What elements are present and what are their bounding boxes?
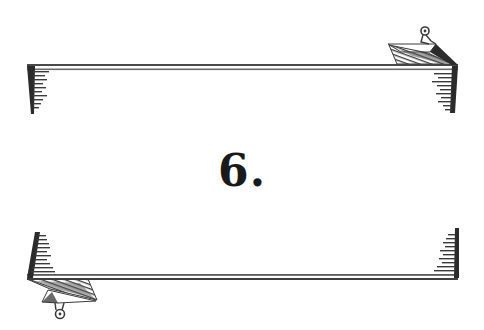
- ribbon-banner-bottom: [27, 228, 459, 319]
- top-rail: [27, 64, 458, 70]
- chapter-number: 6.: [0, 146, 484, 196]
- top-right-end-hatching: [432, 66, 458, 113]
- bottom-ribbon-fold: [27, 279, 97, 303]
- bottom-scroll-curl-icon: [55, 303, 65, 319]
- top-scroll-curl-icon: [421, 27, 436, 44]
- bottom-right-end-hatching: [434, 228, 459, 278]
- bottom-left-end-hatching: [27, 232, 55, 278]
- bottom-rail: [27, 274, 458, 280]
- top-ribbon-fold: [388, 44, 458, 65]
- ribbon-banner-top: [27, 27, 458, 114]
- top-left-end-hatching: [27, 66, 49, 114]
